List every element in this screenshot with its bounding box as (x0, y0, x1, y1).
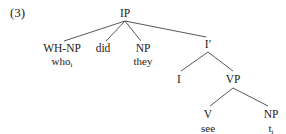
edge-ip-ibar (125, 21, 206, 37)
edge-ibar-vp (208, 52, 233, 71)
edge-ibar-i (181, 52, 208, 71)
index-subscript: i (71, 61, 73, 69)
edge-vp-v (210, 88, 233, 106)
leaf-see: see (201, 123, 215, 134)
tree-edges (0, 0, 286, 134)
leaf-who: whoi (52, 56, 73, 69)
edge-vp-np (233, 88, 268, 106)
node-wh-np: WH-NP (43, 43, 81, 55)
node-i: I (177, 74, 181, 86)
node-did: did (96, 43, 111, 55)
node-ip: IP (120, 8, 130, 20)
node-v: V (204, 109, 212, 121)
node-vp: VP (226, 74, 241, 86)
index-subscript: i (272, 128, 274, 134)
node-np-subject: NP (136, 43, 151, 55)
node-np-object: NP (264, 109, 279, 121)
leaf-trace: ti (268, 123, 273, 134)
leaf-they: they (134, 56, 153, 67)
node-i-bar: I′ (205, 39, 211, 51)
